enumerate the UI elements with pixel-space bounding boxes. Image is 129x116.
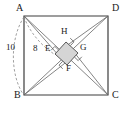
measurement-label-8: 8 (33, 44, 38, 53)
measurement-label-10: 10 (6, 43, 15, 52)
vertex-label-d: D (112, 3, 119, 13)
vertex-label-h: H (61, 27, 68, 36)
inner-square-efgh (55, 42, 78, 65)
geometry-figure: A D B C H G F E 10 8 (0, 0, 129, 116)
vertex-label-a: A (16, 3, 23, 13)
vertex-label-f: F (66, 64, 71, 73)
arc-length-10 (13, 17, 24, 94)
vertex-label-c: C (112, 90, 119, 100)
vertex-label-b: B (14, 90, 21, 100)
vertex-label-g: G (80, 43, 87, 52)
vertex-label-e: E (45, 44, 51, 53)
